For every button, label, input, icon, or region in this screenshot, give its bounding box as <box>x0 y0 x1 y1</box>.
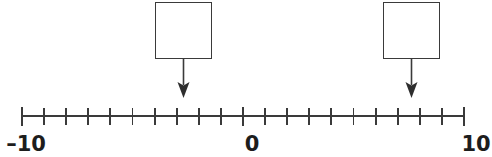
left-answer-box[interactable] <box>156 3 212 59</box>
number-line-ticks <box>22 107 464 126</box>
number-line-svg: –10 0 10 <box>0 0 492 157</box>
axis-label-max: 10 <box>461 132 490 156</box>
number-line-figure: –10 0 10 <box>0 0 492 157</box>
right-answer-box-group[interactable] <box>384 3 440 99</box>
right-answer-box[interactable] <box>384 3 440 59</box>
axis-label-min: –10 <box>6 132 46 156</box>
left-answer-box-group[interactable] <box>156 3 212 99</box>
axis-label-zero: 0 <box>245 132 260 156</box>
